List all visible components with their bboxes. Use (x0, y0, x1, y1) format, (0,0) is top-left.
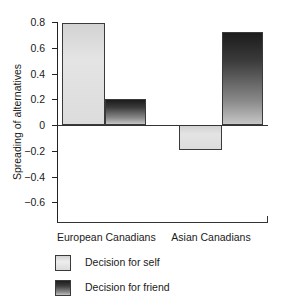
y-tick-0.4: 0.4 (52, 74, 57, 75)
y-axis-line (57, 22, 58, 222)
y-tick-label-neg0.4: −0.4 (24, 171, 45, 182)
zero-baseline (57, 125, 268, 126)
y-tick-label-0.6: 0.6 (30, 43, 45, 54)
plot-area: 0.8 0.6 0.4 0.2 0 −0.2 −0.4 −0.6 (57, 22, 268, 222)
bar-asian-canadians-decision-for-self (179, 125, 222, 150)
y-tick-0.8: 0.8 (52, 22, 57, 23)
y-tick-label-neg0.6: −0.6 (24, 197, 45, 208)
y-tick-label-neg0.2: −0.2 (24, 146, 45, 157)
y-tick-neg0.2: −0.2 (52, 151, 57, 152)
legend-label-decision-for-friend: Decision for friend (85, 282, 170, 293)
legend-item-decision-for-friend: Decision for friend (55, 277, 170, 298)
y-tick-label-0: 0 (39, 120, 45, 131)
y-tick-0.2: 0.2 (52, 99, 57, 100)
y-tick-label-0.4: 0.4 (30, 68, 45, 79)
legend-swatch-light-icon (55, 255, 71, 271)
category-label-european-canadians: European Canadians (57, 232, 151, 243)
legend-label-decision-for-self: Decision for self (85, 257, 160, 268)
y-tick-0.6: 0.6 (52, 48, 57, 49)
y-axis-title-container: Spreading of alternatives (12, 22, 26, 222)
bar-chart-figure: Spreading of alternatives 0.8 0.6 0.4 0.… (0, 0, 281, 304)
legend-swatch-dark-icon (55, 280, 71, 296)
x-axis-end-tick (267, 216, 268, 223)
bar-european-canadians-decision-for-self (62, 23, 105, 125)
y-tick-label-0.8: 0.8 (30, 17, 45, 28)
y-tick-neg0.6: −0.6 (52, 202, 57, 203)
category-label-asian-canadians: Asian Canadians (165, 232, 257, 243)
y-tick-label-0.2: 0.2 (30, 94, 45, 105)
y-tick-neg0.4: −0.4 (52, 177, 57, 178)
y-axis-title: Spreading of alternatives (10, 22, 24, 222)
legend-item-decision-for-self: Decision for self (55, 252, 170, 273)
bar-asian-canadians-decision-for-friend (222, 32, 263, 125)
x-axis-line (57, 222, 268, 223)
chart-legend: Decision for self Decision for friend (55, 252, 170, 302)
bar-european-canadians-decision-for-friend (105, 99, 146, 125)
